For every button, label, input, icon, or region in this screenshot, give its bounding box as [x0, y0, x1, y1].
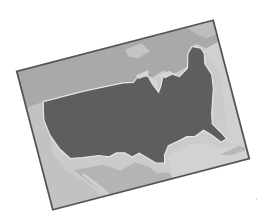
map-card-svg	[0, 0, 274, 216]
map-card	[17, 20, 249, 210]
dust-speck	[256, 198, 257, 200]
map-photo	[0, 0, 274, 216]
